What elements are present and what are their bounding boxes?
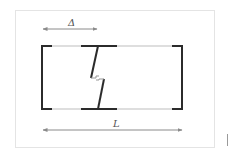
- delta-label: Δ: [68, 18, 75, 28]
- right-bracket: [172, 46, 182, 109]
- strip-diagram: [0, 0, 228, 159]
- break-line: [91, 46, 104, 109]
- thin-edges: [52, 46, 172, 109]
- left-bracket: [42, 46, 52, 109]
- edge-mark: [227, 134, 228, 146]
- length-label: L: [113, 119, 120, 129]
